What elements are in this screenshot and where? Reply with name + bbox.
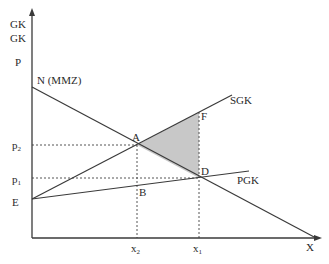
deadweight-loss-area [137,112,199,178]
y-axis-label-gk2: GK [10,32,26,44]
price-p1-label: p1 [12,173,22,187]
point-f-label: F [201,110,207,122]
externality-diagram: GK GK P N (MMZ) SGK PGK A B D E F p2 p1 … [0,0,329,264]
quantity-x2-label: x2 [131,242,141,256]
price-p2-label: p2 [12,139,22,153]
x-axis-label: X [306,241,314,253]
y-axis-arrow-icon [29,8,35,16]
point-d-label: D [201,165,209,177]
y-axis-label-p: P [15,56,21,68]
quantity-x1-label: x1 [193,242,203,256]
point-b-label: B [139,186,146,198]
sgk-label: SGK [230,94,252,106]
demand-curve-n [32,87,316,238]
pgk-label: PGK [237,174,259,186]
point-e-label: E [12,196,19,208]
demand-label: N (MMZ) [37,74,82,87]
y-axis-label-gk1: GK [10,18,26,30]
point-a-label: A [132,131,140,143]
